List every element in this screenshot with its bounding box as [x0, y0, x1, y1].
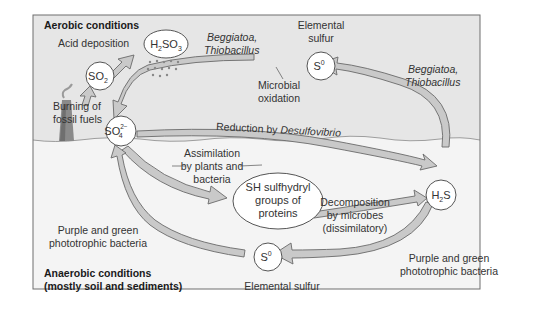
node-sh-groups-line2: groups of: [255, 194, 302, 206]
label-elemental-sulfur-bottom: Elemental sulfur: [244, 280, 320, 292]
label-assimilation-line3: bacteria: [193, 173, 231, 185]
label-beggiatoa-right-line1: Beggiatoa,: [408, 63, 458, 75]
header-anaerobic-line1: Anaerobic conditions: [44, 267, 152, 279]
node-s0-bottom: [254, 243, 282, 271]
sulfur-cycle-diagram: H2SO3 SO2 SO2−4 S0 H2S SH sulfhydryl gro…: [0, 0, 535, 320]
label-assimilation-line1: Assimilation: [184, 147, 240, 159]
label-elemental-sulfur-top-line1: Elemental: [298, 19, 345, 31]
label-acid-deposition: Acid deposition: [58, 37, 129, 49]
label-burning-line2: fossil fuels: [53, 113, 102, 125]
label-purple-right-line2: phototrophic bacteria: [400, 265, 498, 277]
label-decomposition-line3: (dissimilatory): [323, 222, 388, 234]
label-purple-left-line2: phototrophic bacteria: [49, 237, 147, 249]
node-sh-groups-line1: SH sulfhydryl: [246, 181, 311, 193]
node-s0-top: [307, 52, 335, 80]
header-aerobic: Aerobic conditions: [44, 19, 139, 31]
label-microbial-line2: oxidation: [258, 92, 300, 104]
node-h2so3-label: H2SO3: [150, 38, 182, 52]
label-elemental-sulfur-top-line2: sulfur: [308, 32, 334, 44]
header-anaerobic-line2: (mostly soil and sediments): [44, 280, 182, 292]
label-assimilation-line2: by plants and: [181, 160, 244, 172]
label-purple-left-line1: Purple and green: [58, 224, 139, 236]
node-sh-groups-line3: proteins: [258, 207, 298, 219]
label-burning-line1: Burning of: [53, 100, 101, 112]
label-beggiatoa-left-line2: Thiobacillus: [204, 44, 260, 56]
label-beggiatoa-right-line2: Thiobacillus: [405, 76, 461, 88]
label-decomposition-line2: by microbes: [327, 209, 384, 221]
label-purple-right-line1: Purple and green: [409, 252, 490, 264]
label-decomposition-line1: Decomposition: [320, 196, 390, 208]
label-beggiatoa-left-line1: Beggiatoa,: [207, 31, 257, 43]
label-microbial-line1: Microbial: [258, 79, 300, 91]
